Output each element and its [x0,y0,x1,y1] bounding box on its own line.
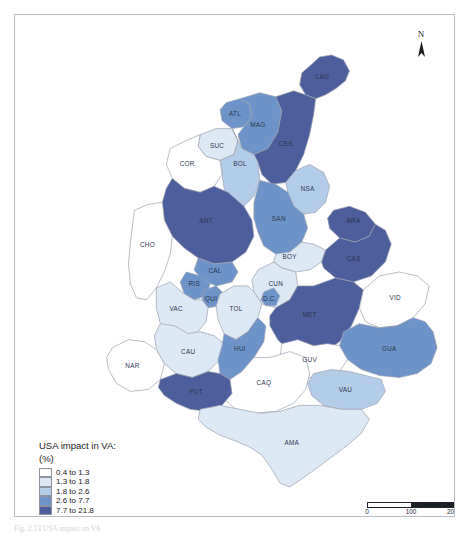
label-VID: VID [390,294,402,301]
legend-row[interactable]: 7.7 to 21.8 [39,506,189,515]
legend-row[interactable]: 1.8 to 2.6 [39,487,189,496]
legend-swatch-4 [39,506,52,515]
legend-swatch-1 [39,477,52,486]
label-SUC: SUC [210,142,224,149]
scale-seg-dark [411,503,454,507]
label-HUI: HUI [234,345,246,352]
label-PUT: PUT [189,388,203,395]
label-GUA: GUA [382,345,397,352]
label-VAU: VAU [339,386,353,393]
figure-caption: Fig. 2.13 USA impact on VA [14,524,101,533]
label-LAG: LAG [316,73,330,80]
label-DC: D.C. [263,295,277,302]
scale-tick-0: 0 [365,508,369,515]
map-legend: USA impact in VA: (%) 0.4 to 1.3 1.3 to … [39,439,189,515]
label-SAN: SAN [272,215,286,222]
label-RIS: RIS [188,280,200,287]
north-label: N [408,29,434,40]
label-COR: COR [180,160,195,167]
scale-tick-100: 100 [406,508,417,515]
legend-swatch-0 [39,468,52,477]
label-CAQ: CAQ [257,379,272,387]
legend-rows: 0.4 to 1.3 1.3 to 1.8 1.8 to 2.6 2.6 to … [39,468,189,515]
label-CAS: CAS [346,255,360,262]
legend-title: USA impact in VA: [39,439,189,452]
legend-row[interactable]: 0.4 to 1.3 [39,468,189,477]
figure-container: LAG ATL MAG CES SUC BOL COR NSA ANT SAN … [0,0,470,536]
label-CUN: CUN [268,280,283,287]
legend-label-2: 1.8 to 2.6 [56,487,89,496]
label-CAU: CAU [181,348,195,355]
label-NAR: NAR [125,362,139,369]
label-NSA: NSA [301,185,315,192]
label-MAG: MAG [250,121,265,128]
legend-swatch-3 [39,496,52,505]
scale-bar: 0 100 200 km [367,502,455,517]
label-QUI: QUI [205,295,217,303]
label-BOY: BOY [283,253,298,260]
scale-tick-200: 200 km [447,508,455,515]
label-MET: MET [302,311,316,318]
label-TOL: TOL [229,305,242,312]
label-ANT: ANT [199,217,213,224]
scale-bar-ticks: 0 100 200 km [367,508,455,517]
label-ATL: ATL [229,110,241,117]
label-CES: CES [279,140,293,147]
label-VAC: VAC [170,305,184,312]
legend-label-1: 1.3 to 1.8 [56,477,89,486]
legend-label-3: 2.6 to 7.7 [56,496,89,505]
scale-seg-light [368,503,411,507]
map-frame[interactable]: LAG ATL MAG CES SUC BOL COR NSA ANT SAN … [14,14,455,517]
label-GUV: GUV [302,356,317,363]
legend-row[interactable]: 2.6 to 7.7 [39,496,189,505]
label-ARA: ARA [346,217,360,224]
legend-unit: (%) [39,452,189,466]
legend-row[interactable]: 1.3 to 1.8 [39,477,189,486]
legend-swatch-2 [39,487,52,496]
north-arrow-icon [417,41,426,58]
north-arrow: N [408,29,434,69]
label-BOL: BOL [233,160,247,167]
label-CHO: CHO [140,241,155,248]
label-AMA: AMA [284,439,299,446]
legend-label-4: 7.7 to 21.8 [56,506,94,515]
legend-label-0: 0.4 to 1.3 [56,468,89,477]
label-CAL: CAL [208,267,221,274]
